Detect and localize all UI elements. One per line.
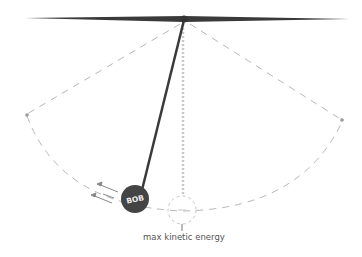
pivot-point xyxy=(181,16,188,23)
max-kinetic-energy-label: max kinetic energy xyxy=(143,232,225,242)
left-endpoint-marker xyxy=(25,113,29,117)
left-limit-line xyxy=(27,24,180,114)
pendulum-rod xyxy=(142,20,184,190)
pendulum-canvas: BOB xyxy=(0,0,362,257)
right-endpoint-marker xyxy=(340,118,344,122)
pendulum-diagram: BOB max kinetic energy xyxy=(0,0,362,257)
swing-arc xyxy=(27,116,342,211)
motion-arrows-icon xyxy=(91,182,118,203)
right-limit-line xyxy=(190,24,342,120)
